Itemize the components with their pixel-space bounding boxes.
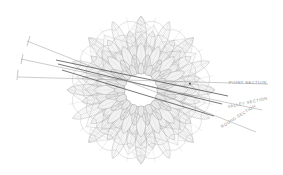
drawing-canvas: POINT SECTIONVALLEY SECTIONROUND SECTION: [0, 0, 283, 175]
rosette-plate: POINT SECTIONVALLEY SECTIONROUND SECTION: [0, 0, 283, 175]
rosette-figure: [67, 16, 215, 164]
point-section-label: POINT SECTION: [229, 80, 267, 85]
point-section-marker: [189, 83, 191, 85]
